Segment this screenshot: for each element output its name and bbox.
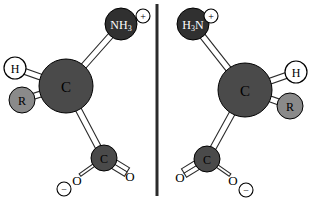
- carboxylate-oxygen-label: O: [72, 173, 81, 188]
- carboxyl-carbon-atom-label: C: [100, 152, 108, 166]
- carboxylate-oxygen-label-text: O: [228, 173, 237, 188]
- ammonium-group-charge-sign: +: [208, 11, 214, 22]
- r-substituent-atom-label: R: [286, 100, 294, 114]
- alpha-carbon-atom: C: [39, 59, 93, 113]
- hydrogen-atom: H: [285, 61, 307, 83]
- carboxylate-oxygen-label-charge: −: [239, 183, 253, 197]
- hydrogen-atom-label: H: [11, 62, 20, 76]
- carbonyl-oxygen-label: O: [175, 170, 184, 185]
- ammonium-group: NH3: [105, 8, 137, 40]
- ammonium-group-charge: +: [204, 9, 218, 23]
- alpha-carbon-atom: C: [218, 63, 272, 117]
- r-substituent-atom: R: [9, 87, 35, 113]
- carboxylate-oxygen-label-text: O: [72, 173, 81, 188]
- carboxyl-carbon-atom: C: [194, 146, 220, 172]
- ammonium-group-charge: +: [136, 9, 150, 23]
- carboxylate-oxygen-label-charge-sign: −: [243, 185, 249, 196]
- molecule-diagram-canvas: OO−NH3+CHRCOO−H3N+CHRC: [0, 0, 311, 203]
- alpha-carbon-atom-label: C: [240, 83, 250, 99]
- alpha-carbon-atom-label: C: [61, 79, 71, 95]
- carboxyl-carbon-atom: C: [91, 145, 117, 171]
- carbonyl-oxygen-label-text: O: [125, 169, 134, 184]
- hydrogen-atom-label: H: [292, 66, 301, 80]
- r-substituent-atom-label: R: [18, 94, 26, 108]
- ammonium-group-charge-sign: +: [140, 11, 146, 22]
- carboxylate-oxygen-label: O: [228, 173, 237, 188]
- carbonyl-oxygen-label: O: [125, 169, 134, 184]
- carbonyl-oxygen-label-text: O: [175, 170, 184, 185]
- carboxylate-oxygen-label-charge-sign: −: [61, 184, 67, 195]
- carboxyl-carbon-atom-label: C: [203, 153, 211, 167]
- enantiomer-pair-figure: OO−NH3+CHRCOO−H3N+CHRC: [0, 0, 311, 203]
- r-substituent-atom: R: [277, 93, 303, 119]
- hydrogen-atom: H: [4, 57, 26, 79]
- carboxylate-oxygen-label-charge: −: [57, 182, 71, 196]
